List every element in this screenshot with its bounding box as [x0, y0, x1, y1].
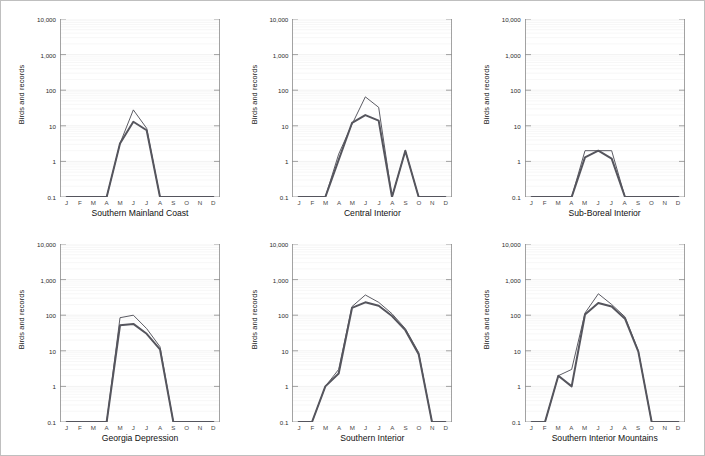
x-tick-label: J: [145, 424, 148, 431]
data-series-line: [531, 294, 678, 422]
x-tick-label: M: [117, 199, 122, 206]
y-axis-label: Birds and records: [480, 5, 494, 183]
y-tick-label: 10: [514, 347, 521, 354]
plot-area: 10,0001,0001001010.1JFMAMJJASOND: [60, 244, 220, 422]
y-tick-label: 1: [53, 383, 56, 390]
x-tick-label: M: [350, 199, 355, 206]
x-tick-label: M: [582, 424, 587, 431]
x-tick-label: S: [171, 199, 175, 206]
plot-svg: [60, 19, 220, 197]
x-tick-label: J: [596, 424, 599, 431]
x-tick-label: A: [337, 199, 341, 206]
major-gridlines: [60, 244, 220, 422]
x-tick-label: J: [530, 199, 533, 206]
x-tick-label: J: [377, 199, 380, 206]
chart-panel: Birds and records10,0001,0001001010.1JFM…: [5, 5, 237, 230]
major-gridlines: [525, 244, 685, 422]
x-tick-label: F: [310, 424, 314, 431]
x-tick-label: J: [297, 199, 300, 206]
y-tick-label: 1: [517, 383, 520, 390]
y-tick-label: 1,000: [273, 276, 288, 283]
x-tick-label: N: [662, 424, 666, 431]
plot-area: 10,0001,0001001010.1JFMAMJJASOND: [292, 244, 452, 422]
y-tick-label: 100: [510, 312, 520, 319]
panel-title: Georgia Depression: [60, 433, 220, 443]
x-tick-label: J: [610, 199, 613, 206]
y-tick-label: 0.1: [280, 419, 289, 426]
x-tick-label: S: [636, 424, 640, 431]
panel-inner: Birds and records10,0001,0001001010.1JFM…: [5, 230, 237, 455]
x-tick-label: A: [623, 199, 627, 206]
y-axis-label-text: Birds and records: [482, 289, 491, 349]
x-tick-label: A: [569, 199, 573, 206]
x-tick-label: M: [117, 424, 122, 431]
major-gridlines: [292, 244, 452, 422]
plot-svg: [525, 244, 685, 422]
x-tick-label: J: [596, 199, 599, 206]
x-tick-label: M: [555, 199, 560, 206]
panel-inner: Birds and records10,0001,0001001010.1JFM…: [237, 5, 469, 230]
y-tick-label: 1,000: [41, 276, 56, 283]
y-axis-label-text: Birds and records: [482, 64, 491, 124]
data-series-line: [67, 110, 214, 197]
panel-title: Southern Interior Mountains: [525, 433, 685, 443]
x-tick-label: A: [390, 199, 394, 206]
plot-svg: [292, 19, 452, 197]
chart-panel: Birds and records10,0001,0001001010.1JFM…: [470, 230, 702, 455]
y-tick-label: 10: [281, 122, 288, 129]
x-tick-label: J: [132, 199, 135, 206]
data-series-line: [531, 151, 678, 197]
y-tick-label: 100: [510, 87, 520, 94]
x-tick-label: J: [530, 424, 533, 431]
y-tick-label: 10: [49, 347, 56, 354]
data-series-line: [299, 302, 446, 422]
data-series-line: [67, 315, 214, 422]
x-tick-label: M: [323, 424, 328, 431]
y-tick-label: 1,000: [41, 51, 56, 58]
y-tick-label: 10,000: [269, 16, 288, 23]
y-axis-label: Birds and records: [480, 230, 494, 408]
x-tick-label: O: [649, 199, 654, 206]
x-tick-label: J: [364, 424, 367, 431]
data-series-line: [531, 151, 678, 197]
y-tick-label: 100: [46, 312, 56, 319]
x-tick-label: D: [211, 199, 215, 206]
y-axis-label-text: Birds and records: [18, 64, 27, 124]
panel-inner: Birds and records10,0001,0001001010.1JFM…: [470, 230, 702, 455]
x-tick-label: A: [105, 199, 109, 206]
x-tick-label: S: [404, 424, 408, 431]
x-tick-label: M: [350, 424, 355, 431]
panel-inner: Birds and records10,0001,0001001010.1JFM…: [470, 5, 702, 230]
x-tick-label: M: [323, 199, 328, 206]
x-tick-label: O: [649, 424, 654, 431]
x-tick-label: A: [623, 424, 627, 431]
x-tick-label: A: [569, 424, 573, 431]
y-tick-label: 1: [517, 158, 520, 165]
x-tick-label: N: [198, 424, 202, 431]
y-tick-label: 100: [278, 87, 288, 94]
major-gridlines: [292, 19, 452, 197]
y-tick-label: 10,000: [269, 241, 288, 248]
plot-svg: [60, 244, 220, 422]
x-tick-label: O: [184, 199, 189, 206]
plot-svg: [292, 244, 452, 422]
x-tick-label: D: [211, 424, 215, 431]
y-tick-label: 10: [49, 122, 56, 129]
y-tick-label: 1: [285, 158, 288, 165]
y-tick-label: 10,000: [502, 241, 521, 248]
y-tick-label: 1,000: [505, 51, 520, 58]
y-tick-label: 0.1: [512, 194, 521, 201]
x-tick-label: F: [310, 199, 314, 206]
y-axis-label-text: Birds and records: [18, 289, 27, 349]
plot-area: 10,0001,0001001010.1JFMAMJJASOND: [525, 244, 685, 422]
chart-panel: Birds and records10,0001,0001001010.1JFM…: [237, 230, 469, 455]
plot-area: 10,0001,0001001010.1JFMAMJJASOND: [292, 19, 452, 197]
panel-inner: Birds and records10,0001,0001001010.1JFM…: [5, 5, 237, 230]
x-tick-label: J: [377, 424, 380, 431]
x-tick-label: J: [145, 199, 148, 206]
y-tick-label: 10: [514, 122, 521, 129]
panel-title: Southern Mainland Coast: [60, 208, 220, 218]
y-tick-label: 10,000: [502, 16, 521, 23]
x-tick-label: F: [543, 199, 547, 206]
x-tick-label: D: [443, 199, 447, 206]
